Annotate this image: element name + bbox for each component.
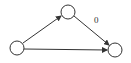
edge-left-right [24, 49, 107, 50]
node-top [61, 5, 75, 19]
graph-svg [0, 0, 131, 63]
edge-left-top [23, 16, 61, 43]
edge-label-top-right: 0 [94, 15, 99, 25]
node-left [10, 41, 24, 55]
edge-top-right [74, 16, 109, 45]
node-right [108, 43, 122, 57]
graph-diagram: 0 [0, 0, 131, 63]
